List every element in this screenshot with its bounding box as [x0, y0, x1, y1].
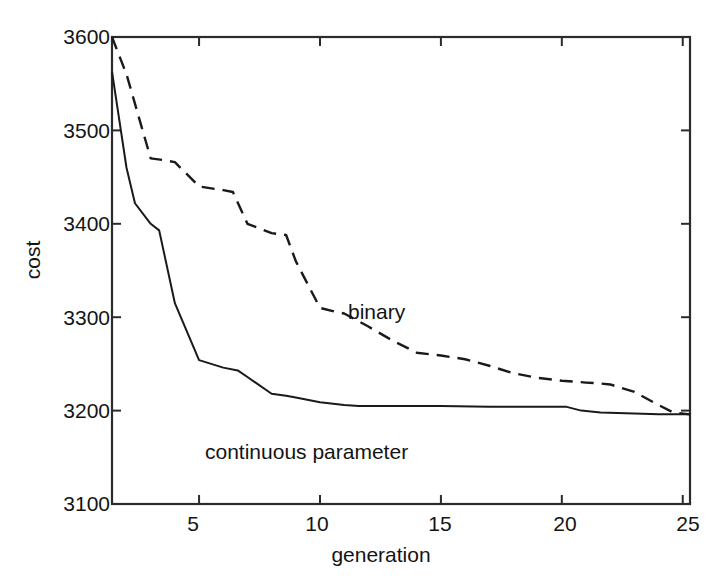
series-label-binary: binary	[348, 300, 405, 324]
series-label-continuous-parameter: continuous parameter	[205, 440, 408, 464]
y-tick-label-3500: 3500	[30, 119, 110, 143]
x-tick-label-15: 15	[410, 512, 470, 536]
x-axis-label: generation	[301, 543, 461, 567]
data-series-group	[112, 37, 690, 414]
x-tick-label-10: 10	[287, 512, 347, 536]
y-tick-label-3300: 3300	[30, 306, 110, 330]
y-axis-label: cost	[21, 230, 45, 290]
y-axis-ticks	[112, 130, 690, 410]
figure-container: 3600 3500 3400 3300 3200 3100 5 10 15 20…	[0, 0, 714, 580]
x-axis-ticks	[199, 37, 683, 504]
axes-box	[112, 37, 690, 504]
x-tick-label-20: 20	[535, 512, 595, 536]
x-tick-label-5: 5	[163, 512, 223, 536]
series-line-continuous-parameter	[112, 72, 690, 415]
y-tick-label-3200: 3200	[30, 399, 110, 423]
y-tick-label-3100: 3100	[30, 492, 110, 516]
x-tick-label-25: 25	[658, 512, 714, 536]
y-tick-label-3600: 3600	[30, 25, 110, 49]
axes-frame	[112, 37, 690, 504]
